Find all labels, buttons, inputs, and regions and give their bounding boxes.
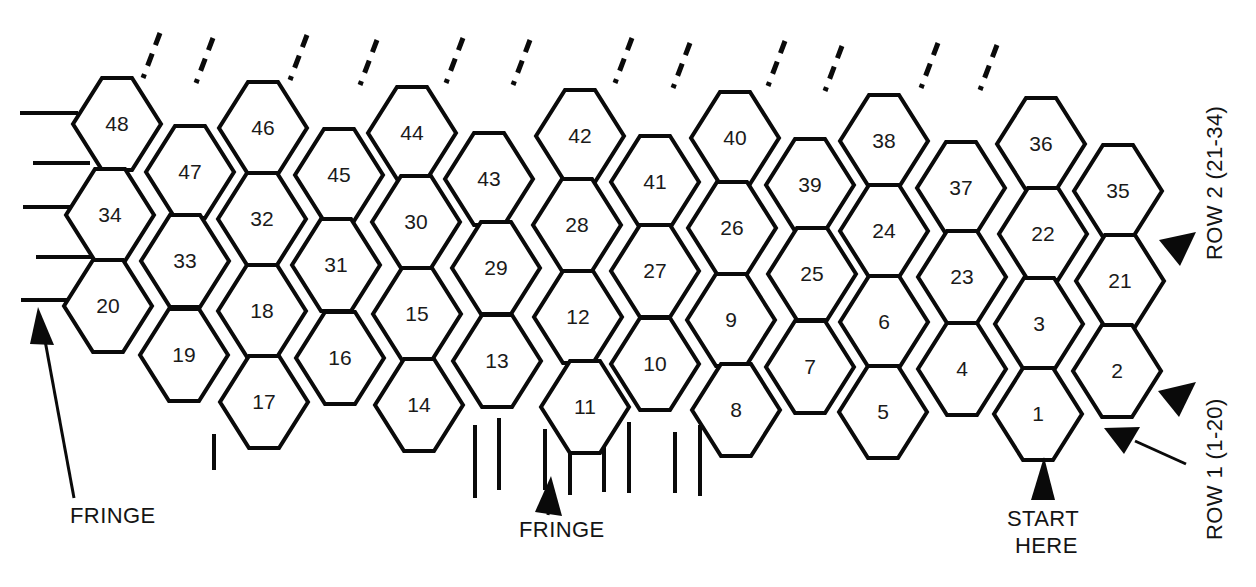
hex-number-label: 9 bbox=[725, 308, 737, 331]
hex-number-label: 21 bbox=[1108, 269, 1131, 292]
hex-cell-21[interactable]: 21 bbox=[1076, 235, 1164, 327]
fringe-dash-top bbox=[921, 43, 938, 88]
hex-cell-20[interactable]: 20 bbox=[64, 260, 152, 352]
hex-number-label: 16 bbox=[328, 346, 351, 369]
hex-number-label: 45 bbox=[327, 163, 350, 186]
hex-number-label: 20 bbox=[96, 294, 119, 317]
hex-cell-4[interactable]: 4 bbox=[918, 323, 1006, 415]
fringe-dash-top bbox=[143, 33, 160, 78]
fringe-dash-top bbox=[196, 38, 213, 83]
hex-number-label: 7 bbox=[804, 355, 816, 378]
hex-cell-35[interactable]: 35 bbox=[1074, 145, 1162, 237]
hex-number-label: 46 bbox=[251, 116, 274, 139]
hex-cell-39[interactable]: 39 bbox=[766, 139, 854, 231]
hex-number-label: 35 bbox=[1106, 179, 1129, 202]
hex-cell-38[interactable]: 38 bbox=[840, 95, 928, 187]
hex-number-label: 6 bbox=[878, 310, 890, 333]
hex-cell-34[interactable]: 34 bbox=[66, 169, 154, 261]
fringe-dash-top bbox=[980, 45, 997, 90]
hex-number-label: 4 bbox=[956, 357, 968, 380]
hex-number-label: 41 bbox=[643, 170, 666, 193]
hex-cell-13[interactable]: 13 bbox=[453, 315, 541, 407]
hex-number-label: 29 bbox=[484, 256, 507, 279]
hex-number-label: 27 bbox=[643, 259, 666, 282]
hex-number-label: 34 bbox=[98, 203, 122, 226]
fringe-dash-top bbox=[768, 41, 785, 86]
hex-cell-31[interactable]: 31 bbox=[292, 219, 380, 311]
hex-cell-48[interactable]: 48 bbox=[73, 78, 161, 170]
hex-cell-26[interactable]: 26 bbox=[688, 182, 776, 274]
hex-number-label: 36 bbox=[1029, 132, 1052, 155]
hex-number-label: 10 bbox=[643, 352, 666, 375]
hexagon-chart-svg: 4846444240383647454341393735343230282624… bbox=[0, 0, 1256, 587]
hex-number-label: 14 bbox=[407, 393, 431, 416]
hex-number-label: 24 bbox=[872, 219, 896, 242]
hex-cell-47[interactable]: 47 bbox=[146, 126, 234, 218]
hex-cell-3[interactable]: 3 bbox=[995, 278, 1083, 370]
fringe-left-leader bbox=[44, 335, 74, 498]
hex-number-label: 1 bbox=[1032, 402, 1044, 425]
start-here-label-line1: START bbox=[1007, 506, 1079, 531]
hex-cell-7[interactable]: 7 bbox=[766, 321, 854, 413]
hex-cell-32[interactable]: 32 bbox=[218, 173, 306, 265]
hex-number-label: 8 bbox=[730, 398, 742, 421]
fringe-left-arrowhead bbox=[30, 307, 54, 345]
hex-cell-15[interactable]: 15 bbox=[373, 268, 461, 360]
hex-cell-23[interactable]: 23 bbox=[918, 231, 1006, 323]
hex-cell-45[interactable]: 45 bbox=[295, 129, 383, 221]
hex-cell-33[interactable]: 33 bbox=[141, 215, 229, 307]
hex-cell-28[interactable]: 28 bbox=[533, 179, 621, 271]
hex-cell-18[interactable]: 18 bbox=[218, 265, 306, 357]
hex-number-label: 30 bbox=[404, 210, 427, 233]
row2-label: ROW 2 (21-34) bbox=[1202, 106, 1227, 260]
hex-number-label: 2 bbox=[1111, 359, 1123, 382]
hex-number-label: 48 bbox=[105, 112, 128, 135]
hex-cell-19[interactable]: 19 bbox=[140, 309, 228, 401]
hex-cell-42[interactable]: 42 bbox=[536, 90, 624, 182]
hex-cell-12[interactable]: 12 bbox=[534, 271, 622, 363]
hex-number-label: 22 bbox=[1031, 222, 1054, 245]
hex-cell-9[interactable]: 9 bbox=[687, 274, 775, 366]
hex-number-label: 33 bbox=[173, 249, 196, 272]
hex-cell-37[interactable]: 37 bbox=[917, 142, 1005, 234]
hex-cell-29[interactable]: 29 bbox=[452, 222, 540, 314]
hex-cell-41[interactable]: 41 bbox=[611, 136, 699, 228]
fringe-dash-top bbox=[673, 43, 690, 88]
fringe-dash-top bbox=[825, 46, 842, 91]
row1-arrowhead-upper bbox=[1158, 382, 1196, 417]
hex-number-label: 12 bbox=[566, 305, 589, 328]
hex-cell-14[interactable]: 14 bbox=[375, 359, 463, 451]
hex-number-label: 5 bbox=[877, 400, 889, 423]
diagram-canvas: 4846444240383647454341393735343230282624… bbox=[0, 0, 1256, 587]
hex-cell-16[interactable]: 16 bbox=[296, 312, 384, 404]
hex-number-label: 38 bbox=[872, 129, 895, 152]
hex-cell-5[interactable]: 5 bbox=[839, 366, 927, 458]
hex-number-label: 37 bbox=[949, 176, 972, 199]
hex-cell-22[interactable]: 22 bbox=[999, 188, 1087, 280]
hex-cell-25[interactable]: 25 bbox=[768, 228, 856, 320]
fringe-dash-top bbox=[290, 35, 307, 80]
hex-cell-17[interactable]: 17 bbox=[220, 356, 308, 448]
fringe-dash-top bbox=[360, 40, 377, 85]
fringe-bottom-arrowhead bbox=[535, 476, 562, 516]
hex-number-label: 44 bbox=[400, 121, 424, 144]
hex-cell-43[interactable]: 43 bbox=[445, 133, 533, 225]
hex-number-label: 26 bbox=[720, 216, 743, 239]
hex-cell-24[interactable]: 24 bbox=[840, 185, 928, 277]
hex-cell-40[interactable]: 40 bbox=[691, 92, 779, 184]
hex-number-label: 42 bbox=[568, 124, 591, 147]
hex-number-label: 39 bbox=[798, 173, 821, 196]
hex-cell-30[interactable]: 30 bbox=[372, 176, 460, 268]
hex-cell-44[interactable]: 44 bbox=[368, 87, 456, 179]
hex-cell-2[interactable]: 2 bbox=[1073, 325, 1161, 417]
row1-arrowhead-lower bbox=[1104, 427, 1140, 454]
fringe-dash-top bbox=[513, 40, 530, 85]
hex-number-label: 31 bbox=[324, 253, 347, 276]
hex-cell-8[interactable]: 8 bbox=[692, 364, 780, 456]
hex-cell-6[interactable]: 6 bbox=[840, 276, 928, 368]
row2-arrowhead bbox=[1159, 232, 1196, 266]
hex-cell-1[interactable]: 1 bbox=[994, 368, 1082, 460]
hex-cell-46[interactable]: 46 bbox=[219, 82, 307, 174]
hex-cell-27[interactable]: 27 bbox=[611, 225, 699, 317]
hex-cell-36[interactable]: 36 bbox=[997, 98, 1085, 190]
